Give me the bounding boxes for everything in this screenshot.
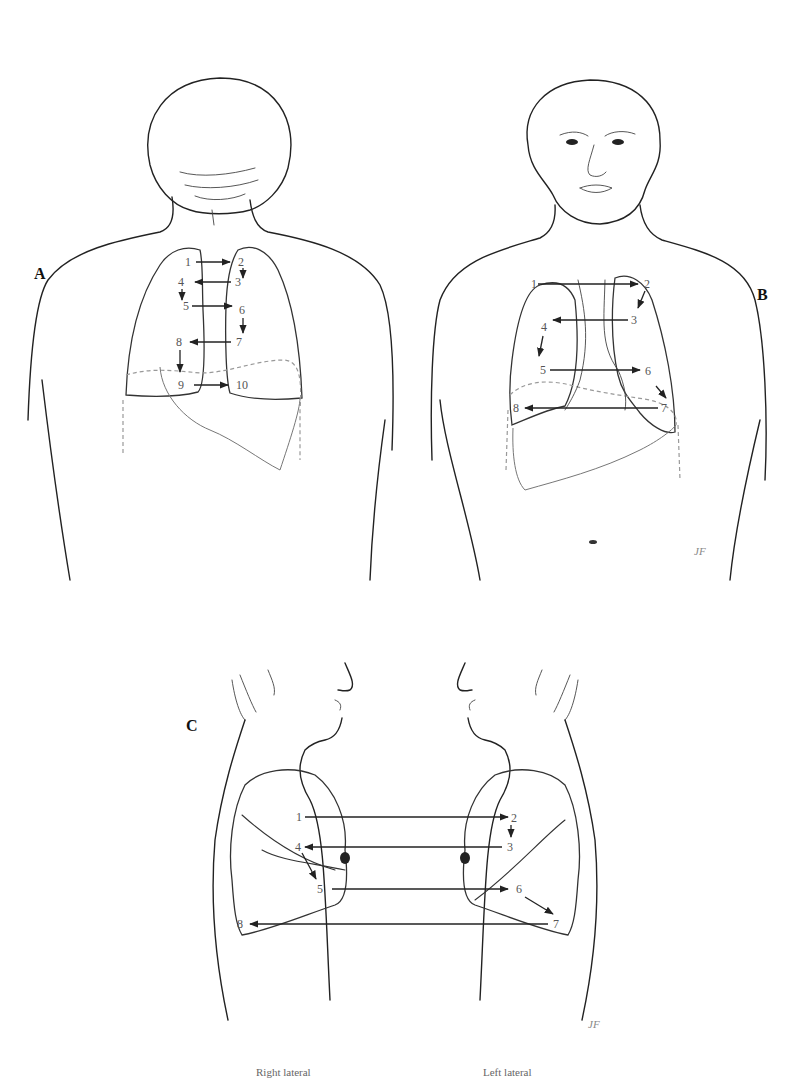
point-b-8: 8 <box>513 401 519 415</box>
point-a-6: 6 <box>239 303 245 317</box>
panel-label-a: A <box>34 265 46 282</box>
auscultation-figure: A 1 2 3 4 5 6 7 8 9 1 <box>0 0 808 1087</box>
point-c-3: 3 <box>507 840 513 854</box>
left-lung-posterior <box>226 247 302 399</box>
left-lateral-figure <box>457 663 596 1020</box>
right-lung-lateral <box>231 770 347 935</box>
point-b-1: 1 <box>531 277 537 291</box>
point-a-8: 8 <box>176 335 182 349</box>
head-front <box>527 80 660 224</box>
right-lateral-figure <box>213 663 352 1020</box>
point-a-1: 1 <box>185 255 191 269</box>
point-c-6: 6 <box>516 882 522 896</box>
signature-b: JF <box>694 545 706 557</box>
point-b-2: 2 <box>644 277 650 291</box>
point-a-2: 2 <box>238 255 244 269</box>
point-a-7: 7 <box>236 335 242 349</box>
point-c-2: 2 <box>511 811 517 825</box>
panel-a-posterior: A 1 2 3 4 5 6 7 8 9 1 <box>28 78 393 580</box>
signature-c: JF <box>588 1018 600 1030</box>
point-a-4: 4 <box>178 275 184 289</box>
left-lung-lateral <box>463 770 579 935</box>
right-lung-anterior <box>510 283 577 425</box>
point-b-3: 3 <box>631 313 637 327</box>
panel-label-b: B <box>757 286 768 303</box>
point-b-7: 7 <box>661 401 667 415</box>
head-back <box>148 78 291 214</box>
point-a-3: 3 <box>235 275 241 289</box>
point-c-1: 1 <box>296 810 302 824</box>
point-c-5: 5 <box>317 882 323 896</box>
point-a-10: 10 <box>236 378 248 392</box>
panel-c-lateral: C <box>186 663 600 1078</box>
point-a-5: 5 <box>183 299 189 313</box>
right-lung-posterior <box>126 248 204 396</box>
point-c-8: 8 <box>237 917 243 931</box>
caption-left-lateral: Left lateral <box>483 1066 532 1078</box>
caption-right-lateral: Right lateral <box>256 1066 311 1078</box>
point-b-5: 5 <box>540 363 546 377</box>
point-c-4: 4 <box>295 840 301 854</box>
point-a-9: 9 <box>178 378 184 392</box>
navel <box>589 540 597 544</box>
panel-b-anterior: B 1 2 3 4 5 6 <box>431 80 768 580</box>
point-c-7: 7 <box>553 917 559 931</box>
point-b-4: 4 <box>541 320 547 334</box>
panel-label-c: C <box>186 717 198 734</box>
point-b-6: 6 <box>645 364 651 378</box>
